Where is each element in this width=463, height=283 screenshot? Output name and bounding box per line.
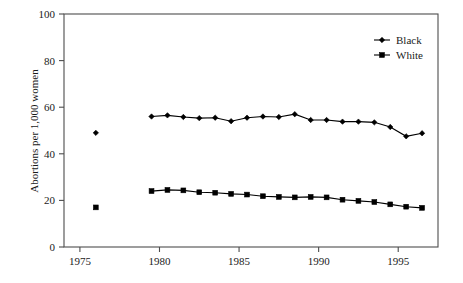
data-point <box>404 204 409 209</box>
data-point <box>324 195 329 200</box>
data-point <box>149 189 154 194</box>
x-axis-tick-label: 1990 <box>308 255 331 267</box>
data-point <box>292 195 297 200</box>
data-point <box>261 194 266 199</box>
data-point <box>181 188 186 193</box>
abortion-rate-line-chart: 020406080100 19751980198519901995 BlackW… <box>0 0 463 283</box>
y-axis-tick-label: 40 <box>44 148 56 160</box>
y-axis-tick-label: 100 <box>39 8 56 20</box>
chart-container: 020406080100 19751980198519901995 BlackW… <box>0 0 463 283</box>
chart-background <box>0 0 463 283</box>
x-axis-tick-label: 1975 <box>69 255 92 267</box>
x-axis-tick-label: 1995 <box>387 255 410 267</box>
legend-label: Black <box>396 34 422 46</box>
data-point <box>308 195 313 200</box>
y-axis-tick-label: 0 <box>50 241 56 253</box>
data-point <box>276 195 281 200</box>
y-axis-tick-label: 60 <box>44 101 56 113</box>
data-point <box>388 202 393 207</box>
data-point <box>213 190 218 195</box>
data-point <box>340 197 345 202</box>
data-point <box>93 205 98 210</box>
x-axis-tick-label: 1985 <box>228 255 251 267</box>
data-point <box>245 192 250 197</box>
data-point <box>229 191 234 196</box>
y-axis-title: Abortions per 1,000 women <box>28 69 40 193</box>
y-axis-tick-label: 80 <box>44 55 56 67</box>
data-point <box>420 205 425 210</box>
x-axis-tick-label: 1980 <box>148 255 171 267</box>
data-point <box>197 190 202 195</box>
data-point <box>372 200 377 205</box>
legend-marker-square-icon <box>380 53 385 58</box>
legend-label: White <box>396 49 423 61</box>
data-point <box>165 188 170 193</box>
y-axis-tick-label: 20 <box>44 194 56 206</box>
data-point <box>356 198 361 203</box>
